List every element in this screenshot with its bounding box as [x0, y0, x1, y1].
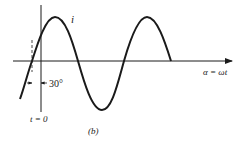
figure-caption: (b) [88, 126, 99, 136]
time-zero-label: t = 0 [30, 114, 48, 124]
phase-angle-label: 30° [49, 78, 63, 89]
current-label: i [71, 13, 74, 25]
x-axis-label: α = ωt [203, 67, 228, 77]
current-waveform [20, 17, 171, 110]
sinusoid-diagram: i 30° α = ωt t = 0 (b) [0, 0, 243, 141]
